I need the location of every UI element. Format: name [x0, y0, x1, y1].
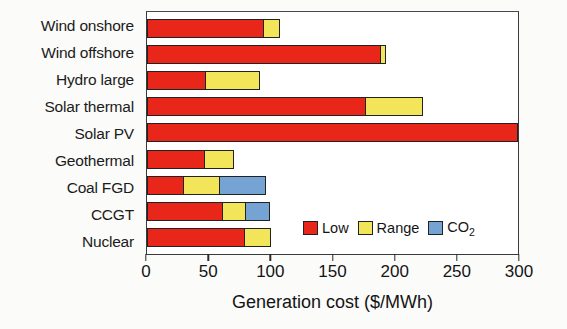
chart-legend: LowRangeCO2: [303, 219, 475, 238]
bar-segment-low: [147, 71, 207, 90]
legend-label: Range: [377, 220, 420, 236]
bar-segment-low: [147, 176, 184, 195]
legend-label: Low: [322, 220, 349, 236]
y-axis-label-4: Solar PV: [0, 120, 140, 147]
x-axis-tick-label: 300: [505, 262, 533, 282]
bar-segment-co2: [219, 176, 266, 195]
bar-row: [147, 71, 518, 90]
bar-row: [147, 123, 518, 142]
bar-segment-range: [244, 228, 271, 247]
bar-segment-low: [147, 123, 518, 142]
x-axis-tick: [145, 254, 146, 261]
x-axis-tick: [518, 254, 519, 261]
y-axis-label-6: Coal FGD: [0, 174, 140, 201]
bar-segment-range: [183, 176, 220, 195]
bar-segment-range: [380, 45, 386, 64]
legend-item: Range: [358, 220, 420, 236]
legend-swatch-icon: [358, 221, 373, 235]
bar-segment-range: [204, 150, 234, 169]
legend-item: CO2: [428, 219, 475, 238]
x-axis-tick-label: 150: [318, 262, 346, 282]
y-axis-label-0: Wind onshore: [0, 12, 140, 39]
bar-segment-low: [147, 97, 366, 116]
bar-segment-co2: [245, 202, 270, 221]
bar-segment-range: [222, 202, 247, 221]
x-axis-tick: [207, 254, 208, 261]
bar-row: [147, 150, 518, 169]
legend-label: CO2: [447, 219, 475, 238]
x-axis: 050100150200250300: [146, 254, 519, 255]
legend-swatch-icon: [303, 221, 318, 235]
y-axis-label-1: Wind offshore: [0, 39, 140, 66]
bar-segment-low: [147, 202, 223, 221]
bar-segment-low: [147, 45, 381, 64]
y-axis-label-3: Solar thermal: [0, 93, 140, 120]
legend-swatch-icon: [428, 221, 443, 235]
bar-row: [147, 202, 518, 221]
bar-row: [147, 19, 518, 38]
x-axis-title: Generation cost ($/MWh): [146, 292, 519, 313]
y-axis-label-7: CCGT: [0, 201, 140, 228]
x-axis-tick-label: 250: [443, 262, 471, 282]
y-axis-label-5: Geothermal: [0, 147, 140, 174]
bar-segment-range: [365, 97, 423, 116]
y-axis-label-8: Nuclear: [0, 228, 140, 255]
x-axis-tick-label: 200: [380, 262, 408, 282]
legend-label-subscript: 2: [469, 226, 475, 238]
x-axis-tick-label: 100: [256, 262, 284, 282]
x-axis-tick: [456, 254, 457, 261]
y-axis-category-labels: Wind onshore Wind offshore Hydro large S…: [0, 12, 140, 255]
bar-segment-low: [147, 150, 205, 169]
bar-chart: Wind onshore Wind offshore Hydro large S…: [0, 0, 567, 329]
bar-row: [147, 176, 518, 195]
bar-segment-range: [205, 71, 260, 90]
legend-item: Low: [303, 220, 349, 236]
bar-segment-low: [147, 228, 245, 247]
x-axis-tick-label: 50: [199, 262, 218, 282]
bar-segment-range: [263, 19, 280, 38]
x-axis-tick: [270, 254, 271, 261]
bar-row: [147, 97, 518, 116]
y-axis-label-2: Hydro large: [0, 66, 140, 93]
bar-row: [147, 45, 518, 64]
x-axis-tick: [394, 254, 395, 261]
bar-segment-low: [147, 19, 264, 38]
x-axis-tick-label: 0: [141, 262, 150, 282]
x-axis-tick: [332, 254, 333, 261]
bar-series-container: [147, 12, 518, 254]
